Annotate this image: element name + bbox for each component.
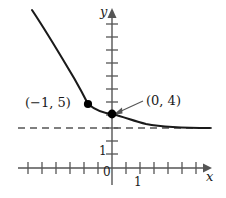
y-axis-arrowhead	[108, 8, 117, 18]
x-axis-tick-label-1: 1	[134, 176, 142, 188]
data-point-minus1-5	[84, 100, 92, 108]
annotation-leader-line	[119, 101, 143, 112]
exponential-graph-figure: y x 0 1 1 (−1, 5) (0, 4)	[0, 0, 226, 198]
y-axis-label: y	[100, 5, 107, 18]
point-label-0-4: (0, 4)	[146, 94, 181, 107]
data-point-0-4	[108, 110, 117, 119]
x-axis-label: x	[206, 170, 213, 183]
origin-label: 0	[103, 166, 111, 178]
point-label-minus1-5: (−1, 5)	[25, 96, 71, 109]
y-axis-tick-label-1: 1	[99, 145, 107, 157]
